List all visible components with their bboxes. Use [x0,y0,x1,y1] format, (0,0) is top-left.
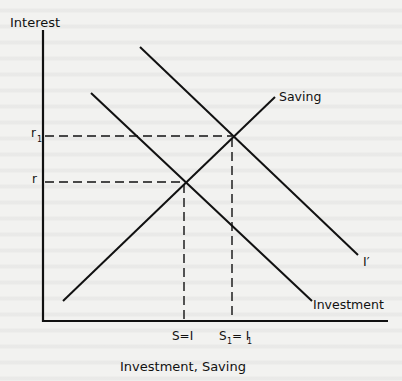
saving-label: Saving [279,89,321,104]
r1-tick-label: r [31,126,36,140]
saving-curve [63,97,275,301]
s-eq-i-tick-label: S=I [172,329,193,343]
x-axis-label: Investment, Saving [120,359,246,374]
r1-tick-subscript: 1 [37,135,42,144]
s1-tick-label: S [219,329,227,343]
investment-shifted-label: I′ [363,254,370,269]
investment-curve [91,93,312,301]
interest-saving-investment-diagram: Interest Investment, Saving Saving Inves… [0,0,402,381]
y-axis-label: Interest [10,15,60,30]
r-tick-label: r [32,172,37,186]
i1-tick-subscript: 1 [247,337,252,346]
investment-shifted-curve [140,47,358,255]
investment-label: Investment [313,297,384,312]
